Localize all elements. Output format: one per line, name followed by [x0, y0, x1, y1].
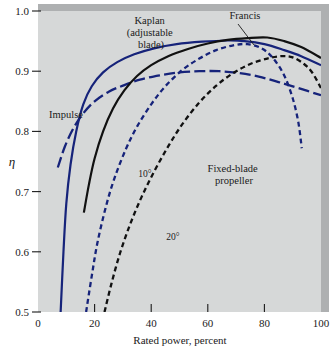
y-tick-label-0.7: 0.7 — [15, 186, 29, 198]
plot-top-shadow-band — [38, 4, 329, 11]
figure-container: 1.0 0.9 0.8 0.7 0.6 0.5 η 0 20 40 60 80 … — [0, 0, 335, 348]
plot-right-shadow-band — [321, 4, 329, 312]
x-tick-label-0: 0 — [35, 317, 41, 329]
francis-label: Francis — [230, 10, 261, 21]
y-tick-label-0.5: 0.5 — [15, 306, 29, 318]
ten-degree-label: 10° — [138, 169, 152, 179]
twenty-degree-label: 20° — [166, 232, 180, 242]
turbine-efficiency-chart: 1.0 0.9 0.8 0.7 0.6 0.5 η 0 20 40 60 80 … — [0, 0, 335, 348]
fixed-blade-propeller-label: Fixed-blade propeller — [208, 163, 261, 186]
y-axis-title: η — [9, 154, 15, 169]
x-tick-label-20: 20 — [89, 317, 101, 329]
y-tick-label-1.0: 1.0 — [15, 5, 29, 17]
plot-inner-plate — [38, 11, 321, 312]
y-tick-label-0.9: 0.9 — [15, 65, 29, 77]
y-tick-label-0.8: 0.8 — [15, 125, 29, 137]
x-tick-label-80: 80 — [259, 317, 271, 329]
y-axis: 1.0 0.9 0.8 0.7 0.6 0.5 η — [9, 5, 41, 318]
x-tick-label-60: 60 — [202, 317, 214, 329]
x-axis-title: Rated power, percent — [133, 334, 226, 346]
x-tick-label-100: 100 — [313, 317, 330, 329]
impulse-label: Impulse — [49, 109, 83, 120]
y-tick-label-0.6: 0.6 — [15, 246, 29, 258]
x-tick-label-40: 40 — [146, 317, 158, 329]
